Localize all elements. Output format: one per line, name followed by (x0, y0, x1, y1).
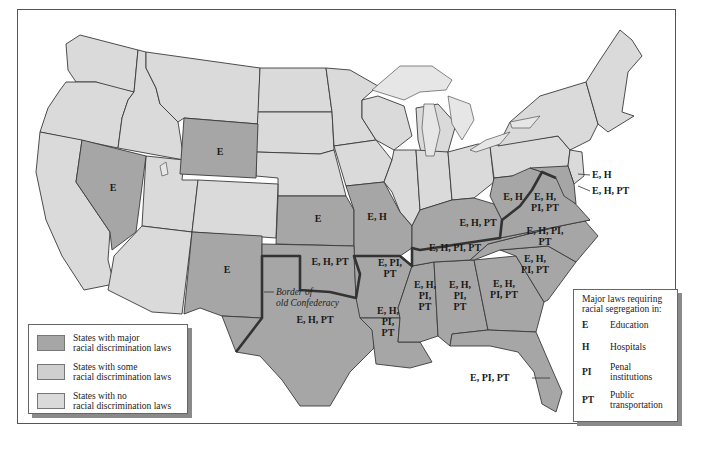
law-desc-h: Hospitals (610, 342, 646, 352)
label-new-mexico: E (224, 264, 231, 275)
label-delaware: E, H (592, 169, 612, 180)
label-louisiana-3: PT (382, 327, 395, 338)
legend-none-line1: States with no (73, 391, 171, 401)
label-north-carolina-1: E, H, PI, (527, 225, 564, 236)
law-item-hospitals: H Hospitals (582, 342, 646, 352)
maryland-leader (578, 186, 590, 191)
label-maryland: E, H, PT (592, 185, 630, 196)
label-south-carolina-1: E, H, (524, 253, 546, 264)
label-mississippi-3: PT (419, 301, 432, 312)
legend-some-line1: States with some (73, 362, 171, 372)
label-arkansas-1: E, PI, (378, 257, 403, 268)
label-kansas: E (315, 213, 322, 224)
label-georgia-1: E, H, (493, 278, 515, 289)
legend-item-some: States with some racial discrimination l… (37, 362, 171, 382)
legend-none-line2: racial discrimination laws (73, 401, 171, 411)
law-desc-pt-1: Public (610, 390, 663, 400)
label-louisiana-1: E, H, (377, 305, 399, 316)
label-missouri: E, H (367, 211, 387, 222)
legend-item-none: States with no racial discrimination law… (37, 391, 171, 411)
legend-laws-title-1: Major laws requiring (582, 294, 677, 304)
swatch-major (37, 335, 65, 351)
law-code-pt: PT (582, 395, 602, 405)
label-wyoming: E (217, 146, 224, 157)
confederacy-annotation-2: old Confederacy (276, 298, 340, 308)
state-north-dakota (258, 68, 332, 112)
legend-major-line2: racial discrimination laws (73, 343, 171, 353)
label-oklahoma: E, H, PT (311, 256, 349, 267)
state-florida (450, 330, 562, 412)
law-desc-pi-1: Penal (610, 362, 652, 372)
label-virginia-1: E, H, (534, 191, 556, 202)
state-indiana (416, 150, 452, 210)
law-item-transport: PT Public transportation (582, 390, 663, 410)
legend-categories: States with major racial discrimination … (28, 324, 188, 414)
label-texas: E, H, PT (296, 314, 334, 325)
label-kentucky: E, H, PT (459, 217, 497, 228)
law-code-e: E (582, 320, 602, 330)
label-florida: E, PI, PT (470, 372, 510, 383)
law-item-penal: PI Penal institutions (582, 362, 652, 382)
label-alabama-2: PI, (454, 290, 467, 301)
swatch-none (37, 393, 65, 409)
label-georgia-2: PI, PT (490, 289, 518, 300)
law-item-education: E Education (582, 320, 649, 330)
law-code-h: H (582, 342, 602, 352)
legend-laws: Major laws requiring racial segregation … (573, 289, 678, 422)
legend-some-line2: racial discrimination laws (73, 372, 171, 382)
state-iowa (334, 140, 392, 186)
label-arkansas-2: PT (384, 268, 397, 279)
label-mississippi-2: PI, (419, 290, 432, 301)
state-colorado (192, 180, 278, 238)
label-virginia-2: PI, PT (531, 202, 559, 213)
label-tennessee: E, H, PI, PT (429, 242, 482, 253)
label-north-carolina-2: PT (539, 236, 552, 247)
label-west-virginia: E, H (503, 191, 523, 202)
state-new-mexico (184, 232, 262, 318)
label-louisiana-2: PI, (382, 316, 395, 327)
law-desc-e: Education (610, 320, 649, 330)
label-nevada: E (110, 182, 117, 193)
law-desc-pt-2: transportation (610, 400, 663, 410)
label-alabama-3: PT (454, 301, 467, 312)
legend-item-major: States with major racial discrimination … (37, 333, 171, 353)
swatch-some (37, 364, 65, 380)
state-ohio (448, 144, 494, 200)
law-desc-pi-2: institutions (610, 372, 652, 382)
label-alabama-1: E, H, (449, 279, 471, 290)
label-mississippi-1: E, H, (414, 279, 436, 290)
lake-superior (372, 66, 452, 100)
confederacy-annotation-1: Border of (276, 287, 314, 297)
law-code-pi: PI (582, 367, 602, 377)
legend-laws-title-2: racial segregation in: (582, 304, 677, 314)
state-south-dakota (256, 112, 334, 154)
legend-major-line1: States with major (73, 333, 171, 343)
label-south-carolina-2: PI, PT (521, 264, 549, 275)
